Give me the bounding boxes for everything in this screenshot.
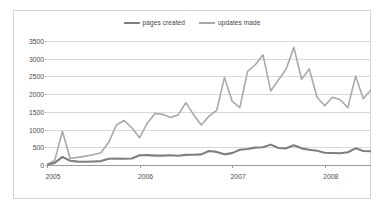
line-updates-made [47, 47, 371, 164]
legend-line-swatch-pages-created [124, 22, 140, 24]
x-tick-mark [140, 165, 141, 168]
x-tick-mark [232, 165, 233, 168]
y-tick-label: 2000 [29, 91, 44, 98]
x-tick-label: 2005 [45, 173, 60, 180]
x-tick-label: 2006 [138, 173, 153, 180]
legend-line-swatch-updates-made [199, 22, 215, 24]
x-tick-mark [47, 165, 48, 168]
legend-item-updates-made: updates made [199, 19, 260, 26]
chart-frame: pages created updates made 0500100015002… [13, 10, 371, 199]
series-lines [47, 41, 371, 165]
x-tick-label: 2007 [231, 173, 246, 180]
chart-legend: pages created updates made [14, 19, 370, 26]
y-tick-label: 0 [40, 162, 44, 169]
x-axis-ticks: 2005200620072008 [47, 165, 371, 187]
y-tick-label: 3500 [29, 38, 44, 45]
plot-area: 0500100015002000250030003500 [47, 41, 371, 165]
y-tick-label: 3000 [29, 55, 44, 62]
x-tick-mark [325, 165, 326, 168]
legend-item-pages-created: pages created [124, 19, 186, 26]
y-tick-label: 500 [33, 144, 44, 151]
y-tick-label: 2500 [29, 73, 44, 80]
y-tick-label: 1000 [29, 126, 44, 133]
legend-label-updates-made: updates made [218, 19, 260, 26]
y-tick-label: 1500 [29, 108, 44, 115]
x-tick-label: 2008 [323, 173, 338, 180]
legend-label-pages-created: pages created [143, 19, 186, 26]
